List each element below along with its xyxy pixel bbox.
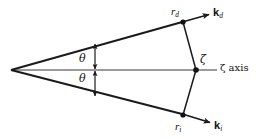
scattering-geometry-figure: rd kd ri ki ζ ζ axis θ θ	[0, 0, 259, 139]
label-k-i-subscript: i	[220, 124, 222, 133]
label-zeta-point: ζ	[200, 54, 206, 65]
ri-point-dot	[180, 112, 185, 117]
label-zeta-axis: ζ axis	[220, 63, 249, 73]
label-r-d: rd	[171, 6, 179, 19]
label-r-i-subscript: i	[179, 125, 181, 134]
label-theta-lower: θ	[79, 73, 86, 84]
label-theta-upper: θ	[79, 53, 86, 64]
zeta-point-dot	[193, 67, 199, 73]
label-k-i: ki	[214, 120, 222, 133]
lower-ray-line	[11, 70, 184, 115]
rd-point-dot	[180, 19, 185, 24]
label-r-d-subscript: d	[175, 10, 179, 19]
label-r-i: ri	[175, 121, 181, 134]
ki-vector-arrow	[184, 115, 210, 123]
label-k-d-subscript: d	[219, 11, 223, 20]
rd-to-zeta-line	[183, 22, 196, 70]
kd-vector-arrow	[184, 15, 209, 22]
upper-ray-line	[11, 22, 184, 71]
ri-to-zeta-line	[183, 70, 196, 115]
label-k-d: kd	[213, 7, 223, 20]
